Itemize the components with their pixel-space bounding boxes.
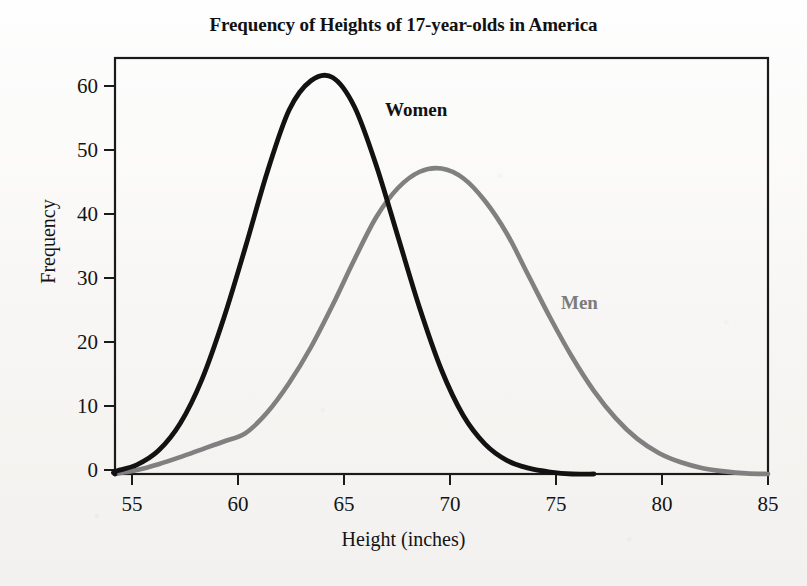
x-tick-label: 80 — [652, 492, 673, 517]
series-label-men: Men — [561, 292, 598, 314]
series-line-men — [115, 168, 768, 474]
x-tick-label: 70 — [440, 492, 461, 517]
x-tick-label: 55 — [122, 492, 143, 517]
x-tick-label: 65 — [334, 492, 355, 517]
x-tick-label: 75 — [546, 492, 567, 517]
series-line-women — [113, 75, 593, 474]
x-tick-label: 85 — [758, 492, 779, 517]
chart-figure: Frequency of Heights of 17-year-olds in … — [0, 0, 807, 586]
y-tick-label: 20 — [56, 330, 98, 355]
y-tick-label: 10 — [56, 394, 98, 419]
y-tick-label: 40 — [56, 202, 98, 227]
x-tick-label: 60 — [228, 492, 249, 517]
x-tick-marks — [132, 474, 768, 485]
y-tick-label: 30 — [56, 266, 98, 291]
series-label-women: Women — [385, 99, 447, 121]
y-tick-label: 60 — [56, 74, 98, 99]
y-tick-label: 50 — [56, 138, 98, 163]
y-tick-label: 0 — [56, 458, 98, 483]
y-axis-title: Frequency — [37, 172, 60, 312]
y-tick-marks — [104, 86, 115, 470]
x-axis-title: Height (inches) — [0, 528, 807, 551]
